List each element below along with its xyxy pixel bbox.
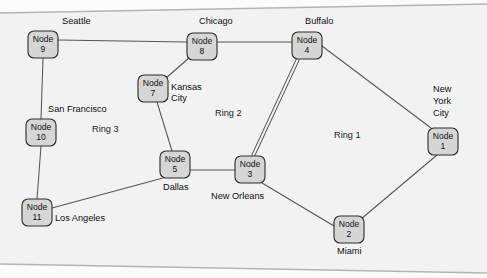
node-5-label: Node <box>165 154 186 164</box>
node-10[interactable]: Node10 <box>26 119 56 146</box>
node-7[interactable]: Node7 <box>138 75 168 102</box>
node-9-label: Node <box>33 34 54 44</box>
node-11-number: 11 <box>33 212 42 222</box>
city-label-miami: Miami <box>337 246 362 256</box>
ring-3-label: Ring 3 <box>92 124 119 134</box>
page-inner-area <box>0 4 487 273</box>
node-3-number: 3 <box>248 169 253 179</box>
node-10-number: 10 <box>36 132 46 142</box>
node-7-label: Node <box>143 78 164 88</box>
city-label-new-york-1: New <box>433 84 452 94</box>
node-8-label: Node <box>192 36 213 46</box>
node-5-number: 5 <box>173 164 178 174</box>
city-label-los-angeles: Los Angeles <box>55 213 105 223</box>
node-2-label: Node <box>339 219 360 229</box>
ring-2-label: Ring 2 <box>215 108 242 118</box>
city-label-new-york-3: City <box>433 108 449 118</box>
node-8[interactable]: Node8 <box>187 33 217 60</box>
city-label-buffalo: Buffalo <box>305 16 333 26</box>
diagram-page: Ring 1Ring 2Ring 3 SeattleChicagoBuffalo… <box>0 0 487 278</box>
node-7-number: 7 <box>151 88 156 98</box>
node-4-number: 4 <box>305 45 310 55</box>
node-9-number: 9 <box>41 44 46 54</box>
city-label-san-francisco: San Francisco <box>48 104 107 114</box>
city-label-kansas-city-1: Kansas <box>171 82 202 92</box>
ring-1-label: Ring 1 <box>334 130 361 140</box>
node-1[interactable]: Node1 <box>428 128 458 155</box>
node-1-number: 1 <box>441 141 446 151</box>
node-4-label: Node <box>297 35 318 45</box>
node-3[interactable]: Node3 <box>235 156 265 183</box>
node-9[interactable]: Node9 <box>28 31 58 58</box>
node-8-number: 8 <box>200 46 205 56</box>
city-label-dallas: Dallas <box>163 182 189 192</box>
node-11-label: Node <box>27 202 48 212</box>
node-1-label: Node <box>433 131 454 141</box>
network-diagram: Ring 1Ring 2Ring 3 SeattleChicagoBuffalo… <box>0 0 487 278</box>
city-label-kansas-city-2: City <box>171 93 187 103</box>
node-2-number: 2 <box>347 229 352 239</box>
city-label-seattle: Seattle <box>62 16 91 26</box>
city-label-new-york-2: York <box>433 96 451 106</box>
node-3-label: Node <box>240 159 261 169</box>
node-2[interactable]: Node2 <box>334 216 364 243</box>
city-label-chicago: Chicago <box>199 16 233 26</box>
node-4[interactable]: Node4 <box>292 32 322 59</box>
city-label-new-orleans: New Orleans <box>211 191 265 201</box>
node-11[interactable]: Node11 <box>22 199 52 226</box>
node-10-label: Node <box>31 122 52 132</box>
node-5[interactable]: Node5 <box>160 151 190 178</box>
